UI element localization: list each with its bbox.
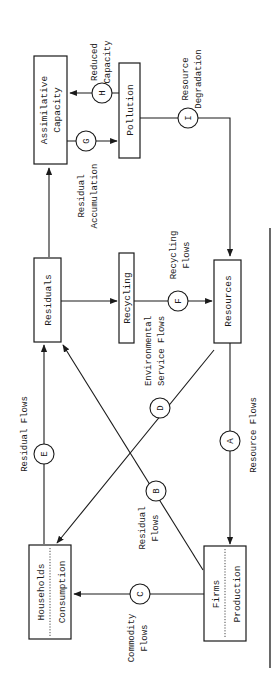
label-recycling-flows: Recycling Flows <box>169 231 192 280</box>
label-environmental-service-flows: Environmental Service Flows <box>144 316 167 386</box>
label-residual-flows-b: Residual Flows <box>138 506 161 549</box>
svg-text:Households: Households <box>36 563 47 620</box>
svg-text:A: A <box>226 438 236 444</box>
svg-text:Environmental: Environmental <box>144 316 154 386</box>
node-firms: Firms Production <box>204 546 246 641</box>
node-pollution: Pollution <box>119 63 140 158</box>
svg-text:F: F <box>174 298 184 303</box>
flow-marker-d: D <box>150 398 170 418</box>
node-assimilative-capacity: Assimilative Capacity <box>34 56 67 164</box>
environment-economy-flow-diagram: Assimilative Capacity Pollution Residual… <box>0 0 277 685</box>
flow-marker-i: I <box>178 108 198 128</box>
node-households: Households Consumption <box>29 545 71 639</box>
svg-text:Residual: Residual <box>77 174 87 217</box>
svg-text:Residual Flows: Residual Flows <box>20 396 30 472</box>
svg-text:Accumulation: Accumulation <box>90 164 100 229</box>
flow-marker-f: F <box>168 291 188 311</box>
svg-text:B: B <box>152 488 162 494</box>
svg-text:Resources: Resources <box>223 275 234 326</box>
svg-text:Recycling: Recycling <box>169 231 179 280</box>
flow-d-line <box>57 350 214 543</box>
svg-text:Reduced: Reduced <box>90 43 100 81</box>
node-recycling: Recycling <box>119 253 134 343</box>
flow-marker-a: A <box>220 431 240 451</box>
node-resources: Resources <box>214 260 241 343</box>
svg-text:Flows: Flows <box>182 241 192 268</box>
svg-text:Capacity: Capacity <box>103 40 113 84</box>
svg-text:G: G <box>82 138 92 143</box>
label-reduced-capacity: Reduced Capacity <box>90 40 113 84</box>
label-resource-flows: Resource Flows <box>249 397 259 473</box>
label-residual-accumulation: Residual Accumulation <box>77 164 100 229</box>
svg-text:Capacity: Capacity <box>52 87 63 133</box>
svg-text:Production: Production <box>232 565 243 622</box>
flow-i-line <box>140 118 230 256</box>
svg-text:Flows: Flows <box>140 624 150 651</box>
flow-marker-b: B <box>146 481 166 501</box>
flow-marker-c: C <box>130 584 150 604</box>
svg-text:Degradation: Degradation <box>194 49 204 108</box>
svg-text:Recycling: Recycling <box>122 272 133 323</box>
svg-text:C: C <box>136 591 146 597</box>
flow-marker-g: G <box>76 131 96 151</box>
flow-marker-e: E <box>34 444 54 464</box>
svg-text:H: H <box>98 90 108 95</box>
svg-text:Pollution: Pollution <box>125 84 136 135</box>
flow-b-line <box>63 345 203 570</box>
svg-text:Commodity: Commodity <box>127 613 137 662</box>
svg-text:Flows: Flows <box>151 514 161 541</box>
svg-text:Residual: Residual <box>138 506 148 549</box>
label-residual-flows-e: Residual Flows <box>20 396 30 472</box>
svg-text:Residuals: Residuals <box>43 274 54 325</box>
label-commodity-flows: Commodity Flows <box>127 613 150 662</box>
flow-marker-h: H <box>92 83 112 103</box>
node-residuals: Residuals <box>34 258 61 342</box>
svg-text:Resource Flows: Resource Flows <box>249 397 259 473</box>
svg-text:D: D <box>156 405 166 410</box>
svg-text:Consumption: Consumption <box>57 561 68 624</box>
svg-text:Firms: Firms <box>211 580 222 609</box>
label-resource-degradation: Resource Degradation <box>181 49 204 108</box>
svg-text:E: E <box>40 451 50 456</box>
svg-text:Resource: Resource <box>181 57 191 100</box>
svg-text:Assimilative: Assimilative <box>39 76 50 145</box>
svg-text:I: I <box>184 115 194 120</box>
svg-text:Service Flows: Service Flows <box>157 316 167 386</box>
